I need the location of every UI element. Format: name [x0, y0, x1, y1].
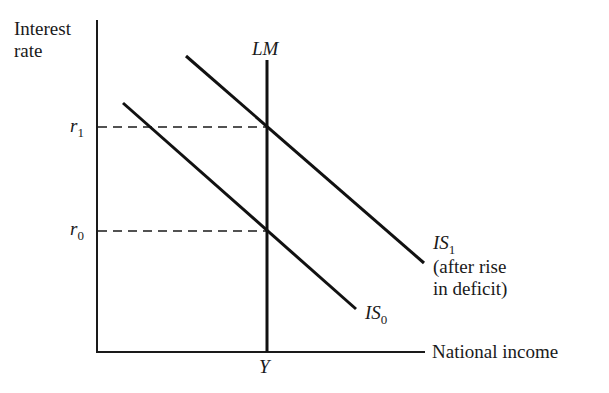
is0-curve [123, 103, 356, 309]
is1-note-line1: (after rise [433, 256, 507, 278]
y-axis-label: Interest rate [14, 18, 71, 62]
is1-note-line2: in deficit) [433, 278, 507, 300]
y-tick-label: Y [259, 356, 270, 378]
is-lm-diagram [0, 0, 609, 393]
r1-tick-label: r1 [70, 115, 84, 139]
is1-curve [186, 56, 424, 263]
r0-tick-label: r0 [70, 218, 84, 242]
is0-label: IS0 [365, 302, 387, 326]
x-axis-label: National income [432, 341, 558, 363]
is1-label: IS1 (after rise in deficit) [433, 232, 507, 300]
lm-label: LM [252, 38, 278, 60]
